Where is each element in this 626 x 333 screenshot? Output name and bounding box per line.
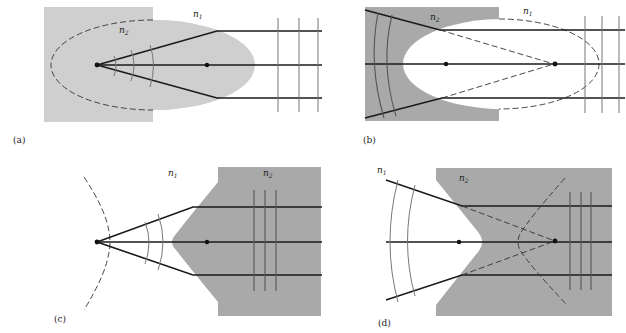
wavefront-arc (408, 185, 416, 296)
panel-c: n1 n2 (c) (54, 167, 322, 324)
n1-label: n1 (168, 168, 178, 179)
source-point (95, 63, 100, 68)
focal-point (205, 240, 209, 244)
n1-label: n1 (377, 165, 387, 176)
n1-label: n1 (523, 6, 533, 17)
wavefront-arc (145, 222, 149, 264)
virtual-source-point (553, 239, 558, 244)
source-point (95, 240, 100, 245)
refraction-diagram: n2 n1 (a) n2 n1 (b) (0, 0, 626, 333)
panel-label-d: (d) (378, 318, 391, 328)
panel-label-c: (c) (54, 314, 66, 324)
n1-label: n1 (193, 9, 203, 20)
panel-a: n2 n1 (a) (13, 7, 322, 145)
wavefront-arc (390, 180, 398, 302)
panel-label-a: (a) (13, 135, 25, 145)
panel-d: n1 n2 (d) (377, 165, 612, 328)
panel-label-b: (b) (363, 135, 376, 145)
focal-point (444, 62, 448, 66)
focal-point (205, 63, 209, 67)
virtual-source-point (553, 62, 558, 67)
panel-b: n2 n1 (b) (363, 6, 625, 145)
focal-point (457, 240, 461, 244)
